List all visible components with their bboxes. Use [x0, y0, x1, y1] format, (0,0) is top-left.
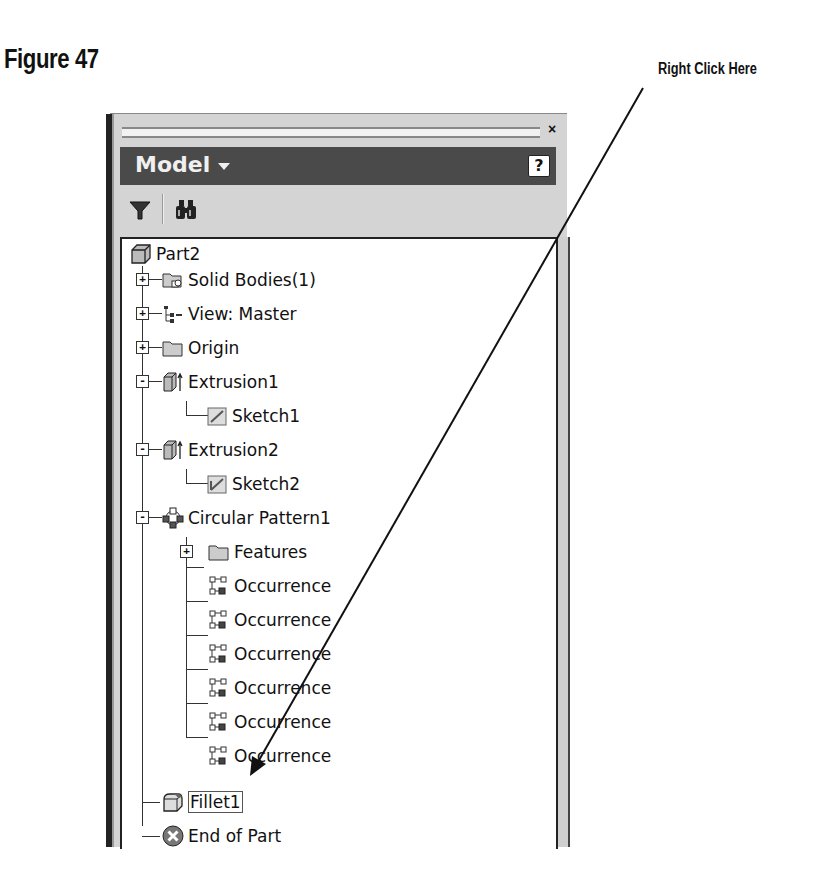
- collapse-extrusion2[interactable]: -: [136, 443, 149, 456]
- chevron-down-icon[interactable]: [218, 163, 230, 170]
- panel-drag-grip[interactable]: [122, 127, 540, 138]
- extrusion-icon: [162, 371, 184, 393]
- tree-node-view-master[interactable]: View: Master: [162, 299, 297, 329]
- callout-label: Right Click Here: [658, 60, 757, 78]
- browser-titlebar: Model ?: [120, 147, 556, 185]
- occurrence-icon: [208, 711, 230, 733]
- filter-icon[interactable]: [128, 198, 152, 222]
- occurrence-icon: [208, 677, 230, 699]
- view-rep-icon: [162, 303, 184, 325]
- tree-node-fillet1[interactable]: Fillet1: [162, 787, 243, 817]
- collapse-circular-pattern1[interactable]: -: [136, 511, 149, 524]
- end-of-part-icon: [162, 825, 184, 847]
- tree-node-circular-pattern1[interactable]: Circular Pattern1: [162, 503, 331, 533]
- sketch-icon: [206, 405, 228, 427]
- tree-node-end-of-part[interactable]: End of Part: [162, 821, 281, 851]
- expand-features[interactable]: +: [180, 545, 193, 558]
- browser-toolbar: [120, 192, 556, 228]
- tree-node-extrusion2[interactable]: Extrusion2: [162, 435, 279, 465]
- browser-title-dropdown[interactable]: Model: [135, 152, 210, 177]
- occurrence-icon: [208, 575, 230, 597]
- sketch-icon: [206, 473, 228, 495]
- extrusion-icon: [162, 439, 184, 461]
- collapse-extrusion1[interactable]: -: [136, 375, 149, 388]
- part-icon: [130, 243, 152, 265]
- model-tree: + + + - - - + Part2 Solid Bodies(1): [120, 237, 558, 849]
- tree-node-origin[interactable]: Origin: [162, 333, 239, 363]
- tree-node-occurrence[interactable]: Occurrence: [208, 571, 331, 601]
- fillet-icon: [162, 791, 184, 813]
- find-binoculars-icon[interactable]: [174, 198, 198, 222]
- expand-solid-bodies[interactable]: +: [136, 273, 149, 286]
- tree-node-features[interactable]: Features: [208, 537, 307, 567]
- folder-icon: [208, 541, 230, 563]
- figure-title: Figure 47: [4, 44, 99, 75]
- circular-pattern-icon: [162, 507, 184, 529]
- tree-node-occurrence[interactable]: Occurrence: [208, 707, 331, 737]
- model-browser-panel: × Model ?: [110, 113, 567, 847]
- tree-node-sketch2[interactable]: Sketch2: [206, 469, 300, 499]
- expand-origin[interactable]: +: [136, 341, 149, 354]
- tree-node-occurrence[interactable]: Occurrence: [208, 639, 331, 669]
- occurrence-icon: [208, 745, 230, 767]
- panel-edge: [106, 114, 114, 847]
- tree-node-occurrence[interactable]: Occurrence: [208, 741, 331, 771]
- help-button[interactable]: ?: [528, 155, 550, 177]
- tree-node-occurrence[interactable]: Occurrence: [208, 673, 331, 703]
- tree-node-extrusion1[interactable]: Extrusion1: [162, 367, 279, 397]
- tree-node-solid-bodies[interactable]: Solid Bodies(1): [162, 265, 316, 295]
- toolbar-divider: [162, 194, 164, 224]
- tree-node-sketch1[interactable]: Sketch1: [206, 401, 300, 431]
- close-button[interactable]: ×: [545, 121, 559, 137]
- occurrence-icon: [208, 643, 230, 665]
- tree-node-occurrence[interactable]: Occurrence: [208, 605, 331, 635]
- solid-bodies-icon: [162, 269, 184, 291]
- occurrence-icon: [208, 609, 230, 631]
- expand-view-master[interactable]: +: [136, 307, 149, 320]
- vertical-scrollbar[interactable]: [556, 237, 570, 847]
- folder-icon: [162, 337, 184, 359]
